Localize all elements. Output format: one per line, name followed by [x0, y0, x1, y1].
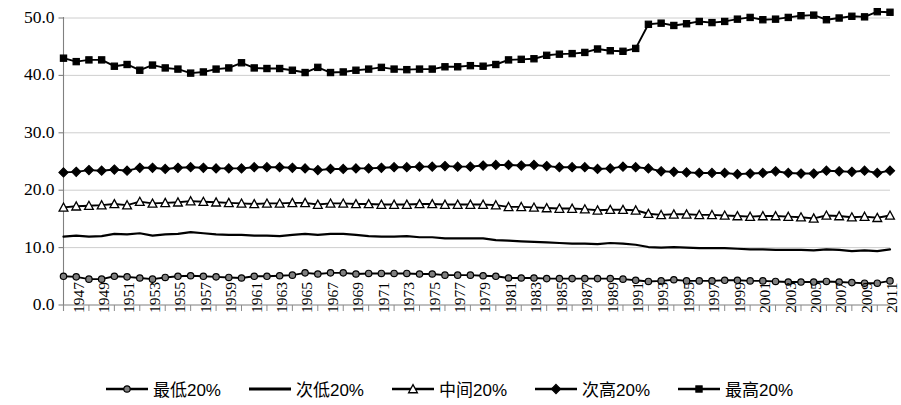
data-point-marker	[264, 273, 270, 279]
data-point-marker	[251, 273, 257, 279]
data-point-marker	[480, 273, 486, 279]
data-point-marker	[313, 166, 322, 175]
data-point-marker	[569, 50, 575, 56]
data-point-marker	[467, 63, 473, 69]
data-point-marker	[262, 163, 271, 172]
x-axis-label: 1959	[222, 282, 240, 313]
data-point-marker	[124, 61, 130, 67]
data-point-marker	[467, 272, 473, 278]
data-point-marker	[264, 65, 270, 71]
x-axis-label: 1987	[578, 282, 596, 313]
y-axis-label: 20.0	[24, 181, 55, 199]
data-point-marker	[415, 162, 424, 171]
data-point-marker	[568, 163, 577, 172]
data-point-marker	[416, 271, 422, 277]
data-point-marker	[569, 275, 575, 281]
data-point-marker	[326, 164, 335, 173]
x-axis-label: 1957	[197, 282, 215, 313]
data-point-marker	[353, 67, 359, 73]
data-point-marker	[529, 160, 538, 169]
data-point-marker	[251, 65, 257, 71]
legend-label: 次低20%	[296, 376, 364, 401]
x-axis-label: 2003	[782, 282, 800, 313]
data-point-marker	[73, 274, 79, 280]
data-point-marker	[873, 168, 882, 177]
data-point-marker	[633, 45, 639, 51]
data-point-marker	[479, 161, 488, 170]
data-point-marker	[289, 67, 295, 73]
data-point-marker	[860, 166, 869, 175]
chart-series-5	[60, 9, 893, 77]
x-axis-label: 1955	[171, 282, 189, 313]
data-point-marker	[391, 270, 397, 276]
data-point-marker	[199, 163, 208, 172]
data-point-marker	[340, 69, 346, 75]
data-point-marker	[453, 162, 462, 171]
x-axis-label: 2005	[807, 282, 825, 313]
legend-item-5[interactable]: 最高20%	[676, 376, 793, 401]
data-point-marker	[226, 274, 232, 280]
x-axis-label: 1969	[349, 282, 367, 313]
data-point-marker	[707, 168, 716, 177]
x-axis-label: 1991	[629, 282, 647, 313]
data-point-marker	[442, 64, 448, 70]
legend-label: 最高20%	[725, 376, 793, 401]
legend-label: 次高20%	[582, 376, 650, 401]
data-point-marker	[238, 60, 244, 66]
legend-item-2[interactable]: 次低20%	[247, 376, 364, 401]
data-point-marker	[250, 163, 259, 172]
data-point-marker	[822, 166, 831, 175]
data-point-marker	[111, 63, 117, 69]
data-point-marker	[835, 167, 844, 176]
x-axis-label: 1983	[527, 282, 545, 313]
legend-marker-triangle-icon	[390, 381, 436, 397]
data-point-marker	[836, 15, 842, 21]
x-axis-label: 1997	[705, 282, 723, 313]
legend-item-3[interactable]: 中间20%	[390, 376, 507, 401]
data-point-marker	[390, 163, 399, 172]
data-point-marker	[72, 167, 81, 176]
data-point-marker	[695, 168, 704, 177]
data-point-marker	[594, 46, 600, 52]
data-point-marker	[378, 64, 384, 70]
data-point-marker	[149, 62, 155, 68]
data-point-marker	[544, 52, 550, 58]
data-point-marker	[493, 273, 499, 279]
data-point-marker	[161, 164, 170, 173]
data-point-marker	[162, 274, 168, 280]
data-point-marker	[455, 64, 461, 70]
x-axis-label: 1995	[680, 282, 698, 313]
data-point-marker	[162, 65, 168, 71]
data-point-marker	[148, 163, 157, 172]
data-point-marker	[861, 14, 867, 20]
data-point-marker	[60, 55, 66, 61]
data-point-marker	[644, 164, 653, 173]
data-point-marker	[124, 385, 130, 391]
data-point-marker	[734, 16, 740, 22]
x-axis-label: 1967	[324, 282, 342, 313]
data-point-marker	[747, 14, 753, 20]
data-point-marker	[442, 272, 448, 278]
data-point-marker	[226, 65, 232, 71]
data-point-marker	[657, 167, 666, 176]
data-point-marker	[518, 56, 524, 62]
data-point-marker	[428, 162, 437, 171]
data-point-marker	[885, 166, 894, 175]
x-axis-label: 1949	[95, 282, 113, 313]
data-point-marker	[556, 51, 562, 57]
legend-item-1[interactable]: 最低20%	[104, 376, 221, 401]
data-point-marker	[391, 66, 397, 72]
chart-series-4	[59, 160, 895, 178]
x-axis-label: 1993	[654, 282, 672, 313]
x-axis-label: 1965	[298, 282, 316, 313]
data-point-marker	[60, 273, 66, 279]
chart-series-2	[64, 232, 891, 251]
data-point-marker	[99, 57, 105, 63]
data-point-marker	[746, 169, 755, 178]
data-point-marker	[59, 168, 68, 177]
legend-item-4[interactable]: 次高20%	[533, 376, 650, 401]
data-point-marker	[97, 166, 106, 175]
data-point-marker	[378, 270, 384, 276]
data-point-marker	[696, 18, 702, 24]
